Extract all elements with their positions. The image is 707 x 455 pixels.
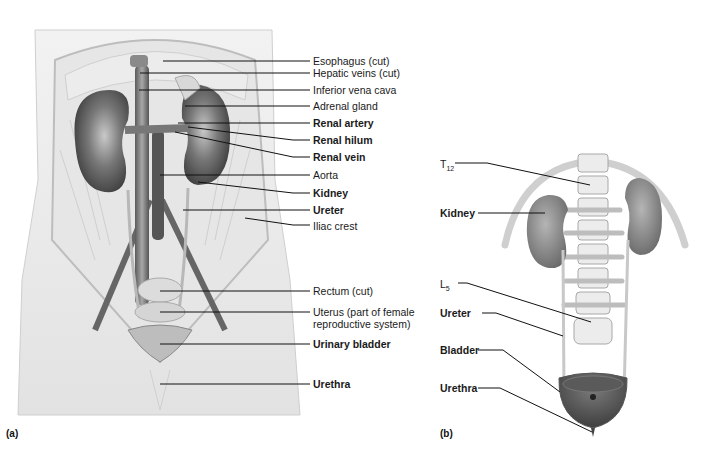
label-inferior-vena-cava: Inferior vena cava [313,84,396,96]
label-ureter-b: Ureter [440,307,471,319]
label-urethra-b: Urethra [440,382,477,394]
label-renal-artery: Renal artery [313,117,374,129]
spine-kidney-bladder-drawing [440,140,707,440]
label-urethra-a: Urethra [313,378,350,390]
label-kidney-b: Kidney [440,207,475,219]
panel-b-tag: (b) [440,428,453,439]
label-urinary-bladder: Urinary bladder [313,338,391,350]
torso-dissection-drawing [0,0,320,420]
panel-a-illustration [0,0,320,420]
label-ureter-a: Ureter [313,204,344,216]
label-kidney-a: Kidney [313,187,348,199]
label-bladder-b: Bladder [440,344,479,356]
panel-b-illustration [440,140,707,440]
label-rectum: Rectum (cut) [313,285,373,297]
label-uterus-line2: reproductive system) [313,318,410,330]
label-adrenal-gland: Adrenal gland [313,100,378,112]
panel-a-tag: (a) [6,428,18,439]
label-uterus-line1: Uterus (part of female [313,306,415,318]
label-renal-hilum: Renal hilum [313,134,373,146]
label-renal-vein: Renal vein [313,151,366,163]
label-aorta: Aorta [313,169,338,181]
label-l5-sub: 5 [446,285,450,292]
label-l5: L5 [440,278,450,295]
label-t12-sub: 12 [446,165,454,172]
label-t12: T12 [440,158,454,175]
label-iliac-crest: Iliac crest [313,220,357,232]
label-esophagus: Esophagus (cut) [313,55,389,67]
label-hepatic-veins: Hepatic veins (cut) [313,67,400,79]
